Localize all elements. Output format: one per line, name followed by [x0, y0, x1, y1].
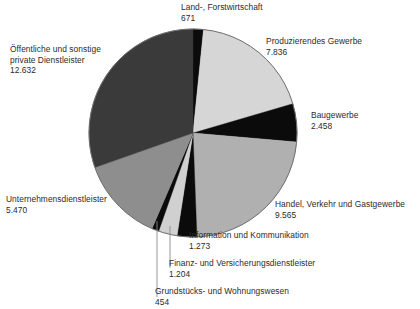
slice-label-value: 9.565	[275, 210, 405, 221]
slice-label-value: 2.458	[311, 121, 359, 132]
slice-label-produzierendes-gewerbe: Produzierendes Gewerbe 7.836	[266, 36, 362, 57]
slice-label-text: Handel, Verkehr und Gastgewerbe	[275, 199, 405, 209]
slice-label-value: 7.836	[266, 47, 362, 58]
slice-label-land-forstwirtschaft: Land-, Forstwirtschaft 671	[181, 2, 263, 23]
slice-label-handel-verkehr-gastgewerbe: Handel, Verkehr und Gastgewerbe 9.565	[275, 199, 405, 220]
slice-label-baugewerbe: Baugewerbe 2.458	[311, 110, 359, 131]
slice-label-information-kommunikation: Information und Kommunikation 1.273	[189, 230, 309, 251]
pie-slice-handel	[193, 133, 297, 237]
pie-slice-group	[89, 29, 297, 237]
slice-label-text: Öffentliche und sonstige	[10, 44, 101, 54]
slice-label-unternehmensdienstleister: Unternehmensdienstleister 5.470	[6, 194, 107, 215]
slice-label-text: Produzierendes Gewerbe	[266, 36, 362, 46]
slice-label-value: 671	[181, 13, 263, 24]
slice-label-value: 5.470	[6, 205, 107, 216]
slice-label-finanz-versicherungsdienstleister: Finanz- und Versicherungsdienstleister 1…	[169, 258, 315, 279]
slice-label-value: 454	[155, 297, 289, 308]
slice-label-text-2: private Dienstleister	[10, 55, 101, 66]
slice-label-text: Finanz- und Versicherungsdienstleister	[169, 258, 315, 268]
slice-label-value: 1.273	[189, 241, 309, 252]
slice-label-value: 1.204	[169, 269, 315, 280]
slice-label-oeffentliche-private-dienstleister: Öffentliche und sonstige private Dienstl…	[10, 44, 101, 76]
slice-label-text: Land-, Forstwirtschaft	[181, 2, 263, 12]
slice-label-text: Information und Kommunikation	[189, 230, 309, 240]
slice-label-text: Grundstücks- und Wohnungswesen	[155, 286, 289, 296]
slice-label-value: 12.632	[10, 65, 101, 76]
slice-label-text: Unternehmensdienstleister	[6, 194, 107, 204]
pie-chart-figure: Land-, Forstwirtschaft 671 Produzierende…	[0, 0, 420, 309]
slice-label-grundstuecks-wohnungswesen: Grundstücks- und Wohnungswesen 454	[155, 286, 289, 307]
slice-label-text: Baugewerbe	[311, 110, 359, 120]
